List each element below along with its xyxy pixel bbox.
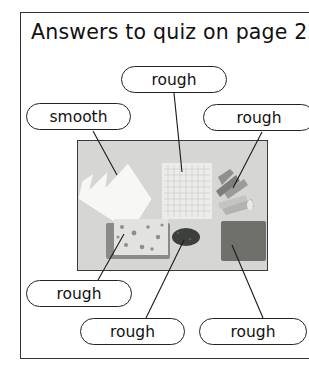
- label-foil: rough: [26, 280, 132, 307]
- paper-shape: [78, 141, 268, 271]
- label-sponge: rough: [199, 318, 307, 345]
- label-pasta: rough: [203, 104, 309, 131]
- label-bubble-wrap: rough: [121, 66, 227, 93]
- label-paper: smooth: [26, 103, 131, 130]
- label-gravel: rough: [80, 318, 185, 345]
- page-title: Answers to quiz on page 22: [31, 20, 309, 44]
- materials-photo: [77, 140, 268, 271]
